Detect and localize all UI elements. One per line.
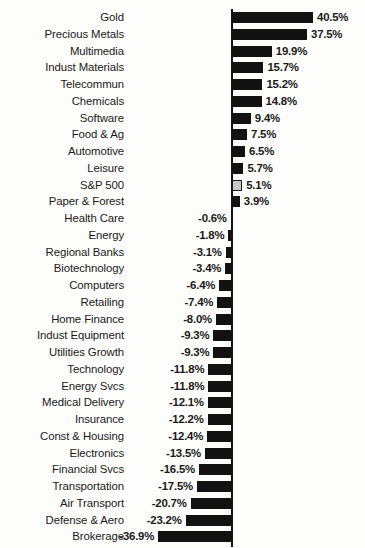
chart-row: Technology-11.8% bbox=[0, 361, 365, 378]
category-label: Energy Svcs bbox=[0, 378, 124, 395]
category-label: Defense & Aero bbox=[0, 512, 124, 529]
category-label: Home Finance bbox=[0, 311, 124, 328]
category-label: Biotechnology bbox=[0, 260, 124, 277]
value-label: 19.9% bbox=[276, 43, 307, 60]
value-label: -11.8% bbox=[170, 361, 204, 378]
category-label: Energy bbox=[0, 227, 124, 244]
chart-row: S&P 5005.1% bbox=[0, 177, 365, 194]
chart-row: Regional Banks-3.1% bbox=[0, 244, 365, 261]
bar bbox=[205, 448, 232, 459]
value-label: -7.4% bbox=[184, 294, 213, 311]
bar bbox=[208, 381, 232, 392]
category-label: Chemicals bbox=[0, 93, 124, 110]
category-label: Electronics bbox=[0, 445, 124, 462]
category-label: Brokerage bbox=[0, 528, 124, 545]
chart-row: Const & Housing-12.4% bbox=[0, 428, 365, 445]
category-label: Indust Equipment bbox=[0, 327, 124, 344]
chart-row: Home Finance-8.0% bbox=[0, 311, 365, 328]
chart-row: Medical Delivery-12.1% bbox=[0, 394, 365, 411]
bar bbox=[208, 364, 232, 375]
category-label: Medical Delivery bbox=[0, 394, 124, 411]
chart-row: Health Care-0.6% bbox=[0, 210, 365, 227]
category-label: Food & Ag bbox=[0, 126, 124, 143]
bar bbox=[197, 481, 232, 492]
chart-row: Biotechnology-3.4% bbox=[0, 260, 365, 277]
chart-row: Leisure5.7% bbox=[0, 160, 365, 177]
bar bbox=[232, 62, 263, 73]
bar bbox=[219, 280, 232, 291]
category-label: Regional Banks bbox=[0, 244, 124, 261]
value-label: 5.7% bbox=[247, 160, 272, 177]
bar bbox=[228, 230, 232, 241]
value-label: -8.0% bbox=[183, 311, 212, 328]
chart-row: Energy-1.8% bbox=[0, 227, 365, 244]
bar bbox=[232, 196, 240, 207]
value-label: 15.2% bbox=[266, 76, 297, 93]
value-label: 6.5% bbox=[249, 143, 274, 160]
category-label: Software bbox=[0, 110, 124, 127]
value-label: -16.5% bbox=[160, 461, 195, 478]
value-label: -20.7% bbox=[152, 495, 187, 512]
value-label: 37.5% bbox=[311, 26, 342, 43]
bar bbox=[207, 431, 232, 442]
value-label: -36.9% bbox=[119, 528, 154, 545]
category-label: Multimedia bbox=[0, 43, 124, 60]
value-label: 40.5% bbox=[317, 9, 348, 26]
chart-row: Gold40.5% bbox=[0, 9, 365, 26]
category-label: Insurance bbox=[0, 411, 124, 428]
bar bbox=[231, 213, 232, 224]
category-label: Computers bbox=[0, 277, 124, 294]
bar bbox=[232, 146, 245, 157]
value-label: 3.9% bbox=[244, 193, 269, 210]
category-label: Const & Housing bbox=[0, 428, 124, 445]
category-label: Financial Svcs bbox=[0, 461, 124, 478]
chart-row: Indust Equipment-9.3% bbox=[0, 327, 365, 344]
category-label: Indust Materials bbox=[0, 59, 124, 76]
value-label: -13.5% bbox=[166, 445, 201, 462]
category-label: Retailing bbox=[0, 294, 124, 311]
value-label: -6.4% bbox=[186, 277, 215, 294]
bar bbox=[232, 113, 251, 124]
value-label: 7.5% bbox=[251, 126, 276, 143]
bar bbox=[208, 397, 232, 408]
category-label: Health Care bbox=[0, 210, 124, 227]
value-label: -12.1% bbox=[169, 394, 204, 411]
category-label: Paper & Forest bbox=[0, 193, 124, 210]
bar bbox=[208, 414, 232, 425]
value-label: -17.5% bbox=[158, 478, 193, 495]
value-label: 15.7% bbox=[267, 59, 298, 76]
value-label: -23.2% bbox=[147, 512, 182, 529]
category-label: Precious Metals bbox=[0, 26, 124, 43]
chart-row: Electronics-13.5% bbox=[0, 445, 365, 462]
category-label: Air Transport bbox=[0, 495, 124, 512]
bar bbox=[191, 498, 232, 509]
chart-row: Utilities Growth-9.3% bbox=[0, 344, 365, 361]
bar bbox=[232, 46, 272, 57]
value-label: -12.4% bbox=[168, 428, 203, 445]
chart-row: Indust Materials15.7% bbox=[0, 59, 365, 76]
bar bbox=[226, 247, 232, 258]
bar bbox=[232, 180, 242, 191]
bar bbox=[186, 515, 232, 526]
bar bbox=[232, 79, 262, 90]
chart-row: Automotive6.5% bbox=[0, 143, 365, 160]
chart-row: Insurance-12.2% bbox=[0, 411, 365, 428]
bar bbox=[232, 29, 307, 40]
category-label: Leisure bbox=[0, 160, 124, 177]
bar bbox=[232, 163, 243, 174]
category-label: Automotive bbox=[0, 143, 124, 160]
value-label: 9.4% bbox=[255, 110, 280, 127]
chart-row: Chemicals14.8% bbox=[0, 93, 365, 110]
value-label: 5.1% bbox=[246, 177, 271, 194]
bar bbox=[217, 297, 232, 308]
category-label: S&P 500 bbox=[0, 177, 124, 194]
chart-row: Telecommun15.2% bbox=[0, 76, 365, 93]
chart-row: Energy Svcs-11.8% bbox=[0, 378, 365, 395]
value-label: -0.6% bbox=[198, 210, 227, 227]
bar bbox=[199, 464, 232, 475]
value-label: -9.3% bbox=[181, 344, 210, 361]
value-label: -9.3% bbox=[181, 327, 210, 344]
bar bbox=[232, 12, 313, 23]
chart-row: Computers-6.4% bbox=[0, 277, 365, 294]
chart-row: Multimedia19.9% bbox=[0, 43, 365, 60]
